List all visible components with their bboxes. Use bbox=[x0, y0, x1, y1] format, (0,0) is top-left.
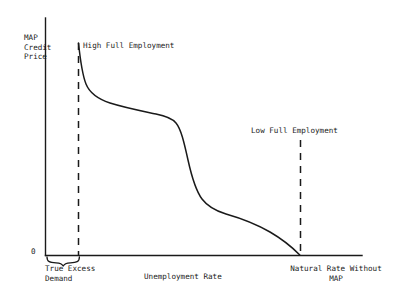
x-tick-label-true-excess-demand: True Excess Demand bbox=[45, 264, 95, 283]
chart-canvas bbox=[0, 0, 395, 297]
y-axis-title: MAP Credit Price bbox=[24, 33, 51, 62]
x-tick-label-natural-rate-without-map: Natural Rate WithoutMAP bbox=[281, 264, 391, 283]
annotation-low-full-employment: Low Full Employment bbox=[251, 126, 338, 136]
map-credit-price-chart: MAP Credit Price 0 High Full Employment … bbox=[0, 0, 395, 297]
x-axis-title: Unemployment Rate bbox=[144, 272, 222, 282]
annotation-high-full-employment: High Full Employment bbox=[83, 41, 174, 51]
map-credit-price-curve bbox=[79, 43, 300, 255]
origin-label: 0 bbox=[31, 247, 36, 257]
natural-rate-line-1: Natural Rate Without bbox=[290, 264, 381, 273]
natural-rate-line-2: MAP bbox=[281, 274, 391, 284]
